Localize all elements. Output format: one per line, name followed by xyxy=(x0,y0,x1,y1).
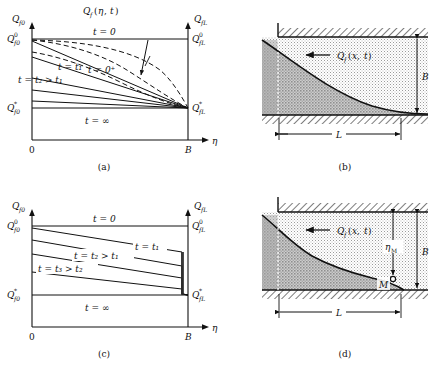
panel-c-label-qfl-zero: Q fL 0 xyxy=(192,218,205,234)
panel-c-y-right-name: Q fL xyxy=(194,201,207,214)
panel-d-point-m-marker xyxy=(390,276,395,281)
panel-a-curve-late xyxy=(32,101,188,108)
panel-a-qf0-star-sup: * xyxy=(14,100,17,107)
panel-c-qf0-zero-sub: f0 xyxy=(13,226,20,234)
panel-a: Q f ( η , t ) Q f0 Q fL η 0 B xyxy=(7,6,218,172)
panel-d-dim-etam-sub: M xyxy=(391,247,397,254)
panel-a-y-right-name: Q fL xyxy=(194,14,207,27)
panel-a-label-qfl-star: Q fL * xyxy=(192,100,205,116)
panel-c-right-axis-arrow xyxy=(185,209,191,216)
panel-a-y-left-sub: f0 xyxy=(18,19,25,27)
panel-a-qf0-zero-sub: f0 xyxy=(13,39,20,47)
panel-a-title-open: ( xyxy=(94,6,98,16)
panel-c-label-qf0-star: Q f0 * xyxy=(7,287,20,303)
panel-a-title: Q f ( η , t ) xyxy=(83,6,119,19)
panel-a-curve-label-t2: t = t₂ > t₁ xyxy=(18,75,63,85)
panel-a-label-qfl-zero: Q fL 0 xyxy=(192,31,205,47)
panel-a-x-axis-arrow xyxy=(202,137,209,143)
panel-a-qf0-zero-sup: 0 xyxy=(14,31,18,38)
panel-b-dim-l-label: L xyxy=(335,130,342,140)
panel-b-flow-close: ) xyxy=(368,51,372,61)
panel-a-x-tick-origin: 0 xyxy=(29,145,35,155)
panel-d-bottom-wall-hatch xyxy=(262,290,428,299)
panel-d: Q f ( x , t ) η M M B L (d) xyxy=(262,197,429,359)
panel-d-top-wall-hatch xyxy=(278,203,428,212)
panel-d-flow-open: ( xyxy=(348,226,352,236)
panel-c-qf0-zero-sup: 0 xyxy=(14,218,18,225)
panel-c-qf0-star-sub: f0 xyxy=(13,295,20,303)
panel-d-flow-close: ) xyxy=(368,226,372,236)
panel-b-flow-comma: , xyxy=(357,51,360,61)
panel-b-flow-open: ( xyxy=(348,51,352,61)
panel-a-title-t: t xyxy=(110,6,114,16)
panel-a-y-left-name: Q f0 xyxy=(12,14,25,27)
panel-a-curve-label-t0: t = 0 xyxy=(93,27,116,37)
panel-b-top-wall-hatch xyxy=(278,28,428,37)
panel-c-curve-label-t2: t = t₂ > t₁ xyxy=(74,251,119,261)
panel-a-title-close: ) xyxy=(115,6,119,16)
panel-a-caption: (a) xyxy=(98,162,110,172)
panel-a-left-axis-arrow xyxy=(29,22,35,29)
panel-b-dim-b-label: B xyxy=(421,72,429,82)
figure-container: Q f ( η , t ) Q f0 Q fL η 0 B xyxy=(0,0,436,376)
panel-c-x-tick-origin: 0 xyxy=(29,332,35,342)
panel-a-qfl-zero-sub: fL xyxy=(198,39,205,47)
panel-c-curve-label-t0: t = 0 xyxy=(93,214,116,224)
panel-c-right-edge-band xyxy=(181,252,184,295)
panel-b-bottom-wall-hatch xyxy=(262,115,428,124)
panel-c-label-qfl-star: Q fL * xyxy=(192,287,205,303)
panel-d-caption: (d) xyxy=(339,349,352,359)
panel-b-caption: (b) xyxy=(339,162,352,172)
panel-a-right-axis-arrow xyxy=(185,22,191,29)
panel-a-label-qf0-zero: Q f0 0 xyxy=(7,31,20,47)
panel-a-qfl-star-sub: fL xyxy=(198,108,205,116)
panel-c-x-axis-label: η xyxy=(212,323,218,333)
panel-a-title-comma: , xyxy=(104,6,107,16)
panel-c-curve-label-t1: t = t₁ xyxy=(135,242,159,252)
panel-c-qf0-star-sup: * xyxy=(14,287,17,294)
panel-c-x-tick-end: B xyxy=(184,332,192,342)
panel-a-qf0-star-sub: f0 xyxy=(13,108,20,116)
panel-c-label-qf0-zero: Q f0 0 xyxy=(7,218,20,234)
panel-a-curve-label-t1: t = t₁ xyxy=(58,62,82,72)
panel-c-y-left-name: Q f0 xyxy=(12,201,25,214)
panel-a-label-qf0-star: Q f0 * xyxy=(7,100,20,116)
panel-d-dim-b-label: B xyxy=(421,247,429,257)
panel-c-curve-label-t3: t = t₃ > t₂ xyxy=(38,264,83,274)
panel-c: Q f0 Q fL η 0 B Q f0 0 Q f0 * xyxy=(7,201,218,359)
panel-a-qfl-star-sup: * xyxy=(199,100,202,107)
panel-b: Q f ( x , t ) B L (b) xyxy=(262,23,429,172)
panel-a-x-axis-label: η xyxy=(212,136,218,146)
panel-c-curve-t1 xyxy=(32,228,188,295)
panel-c-left-axis-arrow xyxy=(29,209,35,216)
panel-c-qfl-star-sub: fL xyxy=(198,295,205,303)
panel-a-curve-label-t0plus: t = 0⁺ xyxy=(88,65,116,75)
panel-c-x-axis-arrow xyxy=(202,324,209,330)
panel-c-qfl-zero-sup: 0 xyxy=(199,218,203,225)
panel-a-qfl-zero-sup: 0 xyxy=(199,31,203,38)
panel-a-x-tick-end: B xyxy=(184,145,192,155)
panel-a-y-right-sub: fL xyxy=(200,19,207,27)
panel-d-point-m-label: M xyxy=(378,280,389,290)
panel-c-curve-label-tinf: t = ∞ xyxy=(85,303,109,313)
panel-d-flow-comma: , xyxy=(357,226,360,236)
panel-b-left-dark-block xyxy=(262,40,278,115)
panel-c-qfl-zero-sub: fL xyxy=(198,226,205,234)
panel-a-time-arrow xyxy=(141,40,148,75)
figure-svg: Q f ( η , t ) Q f0 Q fL η 0 B xyxy=(0,0,436,376)
panel-c-qfl-star-sup: * xyxy=(199,287,202,294)
panel-c-caption: (c) xyxy=(98,349,110,359)
panel-d-dim-l-label: L xyxy=(335,308,342,318)
panel-a-curve-label-tinf: t = ∞ xyxy=(85,116,109,126)
panel-c-y-right-sub: fL xyxy=(200,206,207,214)
panel-c-y-left-sub: f0 xyxy=(18,206,25,214)
